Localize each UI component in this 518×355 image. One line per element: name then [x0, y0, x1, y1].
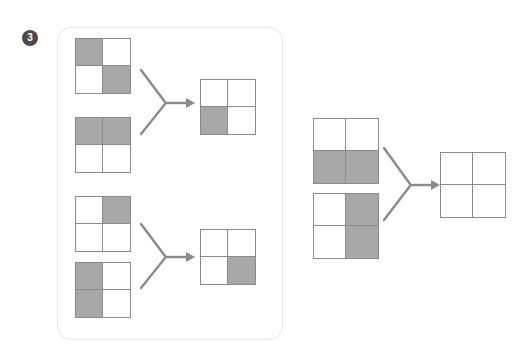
grid-cell	[103, 263, 130, 290]
grid-cell	[314, 151, 346, 183]
grid-cell	[76, 197, 103, 224]
grid-cell	[314, 119, 346, 151]
merge-arrow-question	[382, 146, 440, 226]
grid-cell	[201, 107, 228, 134]
grid-cell	[76, 224, 103, 251]
grid-cell	[346, 151, 378, 183]
grid-question-output-blank[interactable]	[440, 152, 506, 218]
grid-cell	[228, 80, 255, 107]
merge-arrow-example2	[139, 222, 195, 294]
grid-cell	[76, 145, 103, 172]
grid-cell[interactable]	[473, 185, 505, 217]
question-number-badge: 3	[22, 30, 38, 46]
grid-cell	[201, 230, 228, 257]
grid-cell[interactable]	[441, 153, 473, 185]
grid-cell	[103, 197, 130, 224]
grid-cell	[76, 39, 103, 66]
grid-cell	[228, 257, 255, 284]
grid-cell[interactable]	[473, 153, 505, 185]
grid-cell	[346, 194, 378, 226]
grid-cell	[228, 230, 255, 257]
grid-example1-output	[200, 79, 256, 135]
grid-question-input-bottom	[313, 193, 379, 259]
grid-example2-input-top	[75, 196, 131, 252]
grid-cell	[103, 224, 130, 251]
grid-example2-output	[200, 229, 256, 285]
grid-cell	[103, 39, 130, 66]
grid-cell	[346, 119, 378, 151]
grid-cell	[76, 66, 103, 93]
grid-cell	[103, 118, 130, 145]
grid-cell	[103, 66, 130, 93]
grid-cell	[201, 257, 228, 284]
grid-question-input-top	[313, 118, 379, 184]
grid-cell[interactable]	[441, 185, 473, 217]
grid-example1-input-top	[75, 38, 131, 94]
grid-cell	[76, 290, 103, 317]
grid-example1-input-bottom	[75, 117, 131, 173]
grid-cell	[228, 107, 255, 134]
grid-cell	[314, 226, 346, 258]
grid-cell	[103, 290, 130, 317]
grid-cell	[76, 118, 103, 145]
grid-cell	[76, 263, 103, 290]
grid-example2-input-bottom	[75, 262, 131, 318]
grid-cell	[103, 145, 130, 172]
grid-cell	[314, 194, 346, 226]
merge-arrow-example1	[139, 68, 195, 140]
grid-cell	[346, 226, 378, 258]
grid-cell	[201, 80, 228, 107]
